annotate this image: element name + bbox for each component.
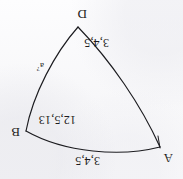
vertex-label-a: A: [164, 152, 173, 165]
annotation-a-question: a?: [36, 61, 44, 72]
vertex-label-d: D: [78, 8, 87, 21]
edge-label-bd: 12,5,13: [39, 114, 76, 126]
annotation-base: a: [40, 61, 44, 71]
vertex-label-b: B: [11, 126, 20, 139]
edge-label-ab: 3,4,5: [75, 155, 100, 167]
curved-triangle-outline: [0, 0, 183, 179]
scanned-figure-page: A B D 3,4,5 12,5,13 3,4,5 a?: [0, 0, 183, 179]
edge-path-ab: [26, 131, 160, 152]
annotation-superscript: ?: [36, 65, 39, 73]
edge-label-da: 3,4,5: [84, 37, 109, 49]
scan-content-rotated: A B D 3,4,5 12,5,13 3,4,5 a?: [0, 0, 183, 179]
